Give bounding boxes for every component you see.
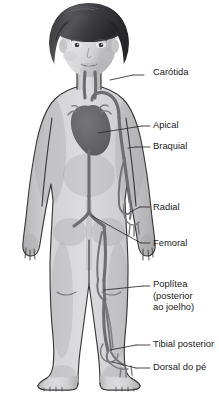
label-apical: Apical (153, 119, 179, 130)
anatomy-illustration: CarótidaApicalBraquialRadialFemoralPoplí… (0, 0, 219, 397)
label-radial: Radial (153, 201, 180, 212)
label-tibial-posterior: Tibial posterior (153, 338, 214, 349)
right-foot (100, 376, 140, 391)
radial-artery (130, 202, 131, 219)
child-body-figure (23, 3, 155, 391)
carotid-artery (84, 72, 85, 98)
left-foot (38, 376, 78, 391)
femoral-artery (104, 226, 106, 280)
labels-group: CarótidaApicalBraquialRadialFemoralPoplí… (153, 66, 214, 372)
label-poplitea-line-2: ao joelho) (153, 301, 194, 312)
label-dorsal-do-pe: Dorsal do pé (153, 361, 206, 372)
head (49, 3, 129, 90)
right-ear (111, 39, 119, 53)
label-poplitea-line-0: Poplítea (153, 278, 188, 289)
label-braquial: Braquial (153, 140, 187, 151)
pulse-points-figure: CarótidaApicalBraquialRadialFemoralPoplí… (0, 0, 219, 397)
label-femoral: Femoral (153, 237, 187, 248)
label-carotida: Carótida (153, 66, 189, 77)
label-poplitea-line-1: (posterior (153, 290, 193, 301)
leader-pointer-carotida (110, 75, 133, 80)
left-ear (59, 39, 67, 53)
